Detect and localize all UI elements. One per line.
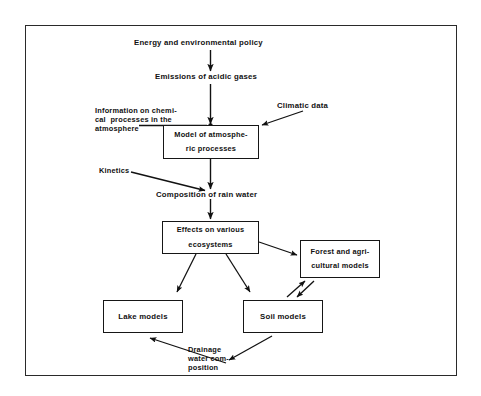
atmos-model-line2: ric processes	[186, 142, 236, 156]
node-climatic-data: Climatic data	[277, 101, 328, 111]
node-emissions: Emissions of acidic gases	[155, 72, 257, 82]
node-rain-composition: Composition of rain water	[156, 190, 257, 200]
forest-line1: Forest and agri-	[310, 245, 369, 259]
effects-line2: ecosystems	[188, 238, 232, 252]
node-information-line1: Information on chemi-	[95, 106, 177, 115]
node-information-line3: atmosphere	[95, 124, 139, 133]
diagram-canvas: Energy and environmental policy Emission…	[0, 0, 481, 396]
box-forest-agricultural-models: Forest and agri- cultural models	[300, 240, 380, 278]
box-effects-ecosystems: Effects on various ecosystems	[162, 221, 259, 254]
box-lake-models: Lake models	[103, 300, 183, 333]
atmos-model-line1: Model of atmosphe-	[174, 128, 247, 142]
box-atmospheric-model: Model of atmosphe- ric processes	[163, 125, 259, 159]
soil-models-label: Soil models	[260, 312, 306, 321]
node-information-line2: cal processes in the	[95, 115, 172, 124]
effects-line1: Effects on various	[177, 223, 245, 237]
forest-line2: cultural models	[311, 259, 369, 273]
node-drainage-line1: Drainage	[188, 345, 221, 354]
node-kinetics: Kinetics	[99, 166, 129, 175]
box-soil-models: Soil models	[243, 300, 323, 333]
node-drainage-line2: water com-	[188, 354, 229, 363]
lake-models-label: Lake models	[118, 312, 167, 321]
node-drainage-line3: position	[188, 363, 218, 372]
node-energy-policy: Energy and environmental policy	[134, 38, 263, 48]
